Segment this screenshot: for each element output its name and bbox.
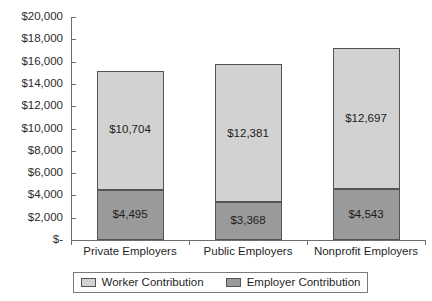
legend-item-worker[interactable]: Worker Contribution xyxy=(81,277,204,289)
y-axis-tick xyxy=(71,173,76,174)
y-axis-tick xyxy=(71,39,76,40)
bar-value-label: $3,368 xyxy=(230,215,265,227)
y-axis-label: $- xyxy=(0,234,63,246)
y-axis-label: $12,000 xyxy=(0,100,63,112)
legend-label-worker: Worker Contribution xyxy=(102,277,204,289)
legend-item-employer[interactable]: Employer Contribution xyxy=(226,277,361,289)
y-axis-label: $14,000 xyxy=(0,78,63,90)
y-axis-label: $2,000 xyxy=(0,212,63,224)
x-axis-category-label: Nonprofit Employers xyxy=(307,245,425,257)
y-axis-tick xyxy=(71,218,76,219)
bar-segment-employer[interactable]: $4,543 xyxy=(333,189,400,240)
x-axis-line xyxy=(71,240,425,241)
bar-value-label: $12,381 xyxy=(227,128,269,140)
x-axis-category-label: Private Employers xyxy=(71,245,189,257)
bar-value-label: $4,543 xyxy=(348,209,383,221)
y-axis-tick xyxy=(71,106,76,107)
legend-swatch-employer-icon xyxy=(226,278,241,287)
legend-label-employer: Employer Contribution xyxy=(247,277,361,289)
y-axis-label: $6,000 xyxy=(0,167,63,179)
legend-swatch-worker-icon xyxy=(81,278,96,287)
y-axis-tick xyxy=(71,129,76,130)
y-axis-tick xyxy=(71,195,76,196)
y-axis-tick xyxy=(71,151,76,152)
x-axis-category-label: Public Employers xyxy=(189,245,307,257)
y-axis-label: $8,000 xyxy=(0,145,63,157)
legend: Worker Contribution Employer Contributio… xyxy=(73,272,368,293)
bar-segment-worker[interactable]: $12,697 xyxy=(333,48,400,190)
y-axis-label: $16,000 xyxy=(0,56,63,68)
y-axis-label: $20,000 xyxy=(0,11,63,23)
bar-segment-employer[interactable]: $4,495 xyxy=(97,190,164,240)
y-axis-label: $18,000 xyxy=(0,34,63,46)
bar-value-label: $10,704 xyxy=(109,124,151,136)
chart-title-clipped xyxy=(64,0,364,4)
y-axis-tick xyxy=(71,17,76,18)
y-axis-tick xyxy=(71,62,76,63)
bar-value-label: $4,495 xyxy=(112,209,147,221)
bar-segment-employer[interactable]: $3,368 xyxy=(215,202,282,240)
bar-value-label: $12,697 xyxy=(345,113,387,125)
y-axis-label: $4,000 xyxy=(0,190,63,202)
stacked-bar-chart: $20,000$18,000$16,000$14,000$12,000$10,0… xyxy=(0,0,432,301)
y-axis-label: $10,000 xyxy=(0,123,63,135)
y-axis-tick xyxy=(71,84,76,85)
bar-segment-worker[interactable]: $12,381 xyxy=(215,64,282,202)
bar-segment-worker[interactable]: $10,704 xyxy=(97,71,164,190)
x-axis-tick xyxy=(425,240,426,245)
